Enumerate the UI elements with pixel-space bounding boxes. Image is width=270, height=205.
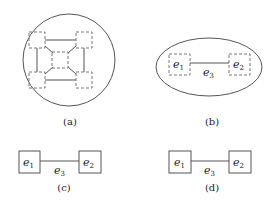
caption-c: (c) [57, 182, 71, 193]
panel-a: (a) [23, 14, 115, 127]
node-bottom-left [29, 72, 45, 88]
caption-b: (b) [205, 116, 219, 127]
node-e2-label: e2 [233, 58, 244, 72]
panel-b: e1 e2 e3 (b) [156, 38, 262, 127]
node-e1-label: e1 [174, 156, 185, 170]
node-e1-label: e1 [173, 58, 184, 72]
edge-diag-tl [45, 46, 53, 53]
edge-e3-label: e3 [204, 164, 215, 178]
edge-diag-bl [45, 67, 53, 74]
edge-e3-label: e3 [54, 164, 65, 178]
edge-e3-label: e3 [203, 66, 214, 80]
node-e2-label: e2 [83, 156, 94, 170]
caption-d: (d) [205, 182, 219, 193]
edge-diag-tr [68, 46, 76, 53]
node-top-left [29, 32, 45, 48]
node-e1-label: e1 [23, 156, 34, 170]
edge-diag-br [68, 67, 76, 74]
node-top-right [76, 32, 92, 48]
node-center [52, 52, 68, 68]
panel-d: e1 e2 e3 (d) [169, 151, 251, 193]
panel-c: e1 e2 e3 (c) [19, 151, 101, 193]
figure: (a) e1 e2 e3 (b) e1 e2 e3 (c) e1 e2 e3 (… [0, 0, 270, 205]
node-e2-label: e2 [233, 156, 244, 170]
node-bottom-right [76, 72, 92, 88]
caption-a: (a) [63, 116, 77, 127]
